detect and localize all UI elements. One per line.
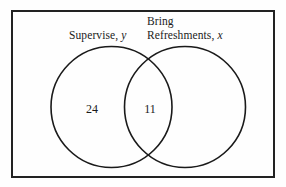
- label-supervise-variable: y: [121, 29, 126, 41]
- label-refreshments-line1: Bring: [147, 15, 223, 29]
- label-refreshments-line2: Refreshments,: [147, 29, 214, 41]
- venn-diagram-figure: Supervise, y Bring Refreshments, x 24 11: [0, 0, 286, 187]
- label-refreshments-variable: x: [217, 29, 222, 41]
- count-intersection: 11: [134, 102, 166, 117]
- label-supervise-set: Supervise, y: [69, 29, 126, 43]
- diagram-frame: [12, 11, 274, 177]
- count-supervise-only: 24: [76, 102, 108, 117]
- label-supervise-text: Supervise,: [69, 29, 118, 41]
- label-refreshments-line2-wrap: Refreshments, x: [147, 29, 223, 43]
- label-bring-refreshments-set: Bring Refreshments, x: [147, 15, 223, 42]
- venn-diagram-svg: [0, 0, 286, 187]
